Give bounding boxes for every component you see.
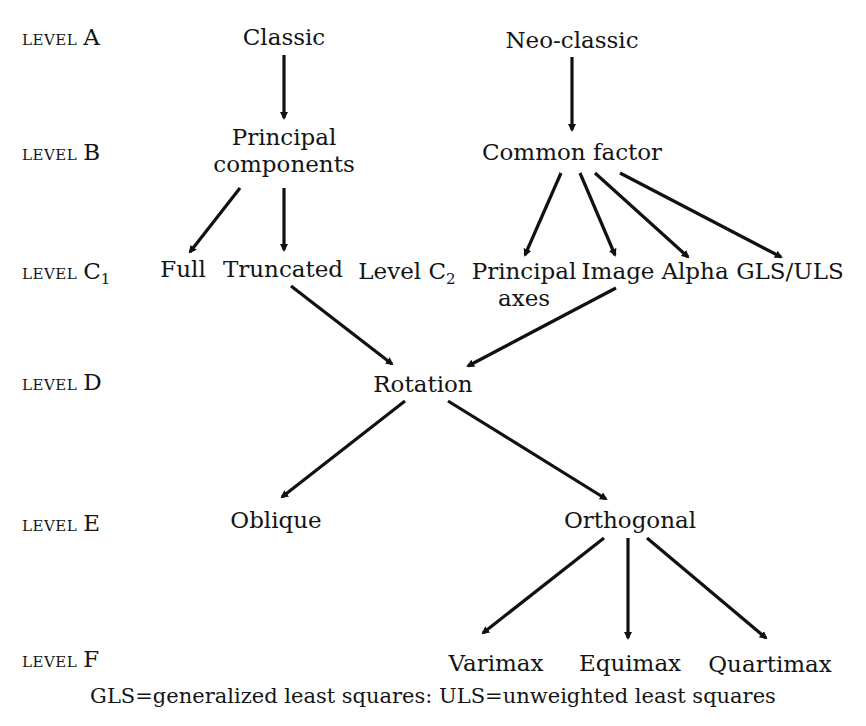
level-prefix: LEVEL xyxy=(22,517,77,535)
node-full: Full xyxy=(160,256,205,283)
node-alpha: Alpha xyxy=(661,258,728,285)
level-prefix: LEVEL xyxy=(22,146,77,164)
level-prefix: LEVEL xyxy=(22,31,77,49)
factor-analysis-diagram: LEVELA LEVELB LEVELC1 LEVELD LEVELE LEVE… xyxy=(0,0,866,726)
node-line: Principal xyxy=(472,258,577,285)
footnote: GLS=generalized least squares: ULS=unwei… xyxy=(90,684,776,708)
level-prefix: LEVEL xyxy=(22,265,77,283)
node-principal-components: Principal components xyxy=(213,124,354,178)
node-level-c2-label: Level C2 xyxy=(358,258,455,293)
node-varimax: Varimax xyxy=(448,650,543,677)
node-gls-uls: GLS/ULS xyxy=(736,258,844,285)
level-f-label: LEVELF xyxy=(22,646,99,676)
level-letter: B xyxy=(83,139,100,165)
level-letter: E xyxy=(83,510,100,536)
arrow-orthogonal-to-quartimax xyxy=(647,538,766,638)
level-c2-text: Level C xyxy=(358,258,446,284)
level-e-label: LEVELE xyxy=(22,510,100,540)
level-letter: C xyxy=(83,258,101,284)
node-quartimax: Quartimax xyxy=(708,651,831,678)
node-image: Image xyxy=(582,258,655,285)
arrow-cf-to-gls-uls xyxy=(620,173,781,257)
level-letter: F xyxy=(83,646,99,672)
arrow-cf-to-principal-axes xyxy=(525,173,561,255)
node-line: Principal xyxy=(213,124,354,151)
node-oblique: Oblique xyxy=(230,507,321,534)
level-prefix: LEVEL xyxy=(22,376,77,394)
node-principal-axes: Principal axes xyxy=(472,258,577,312)
node-common-factor: Common factor xyxy=(482,139,662,166)
level-letter: A xyxy=(83,24,100,50)
node-line: axes xyxy=(472,285,577,312)
node-rotation: Rotation xyxy=(373,371,472,398)
level-letter: D xyxy=(83,369,101,395)
arrow-layer xyxy=(0,0,866,726)
level-d-label: LEVELD xyxy=(22,369,102,399)
node-truncated: Truncated xyxy=(223,256,343,283)
node-neo-classic: Neo-classic xyxy=(505,27,638,54)
level-c2-subscript: 2 xyxy=(446,270,456,288)
node-line: components xyxy=(213,151,354,178)
arrow-pc-to-full xyxy=(190,188,240,252)
arrow-rotation-to-oblique xyxy=(282,401,405,497)
level-prefix: LEVEL xyxy=(22,653,77,671)
node-classic: Classic xyxy=(243,24,326,51)
level-subscript: 1 xyxy=(101,270,111,288)
arrow-truncated-to-rotation xyxy=(291,286,392,364)
node-equimax: Equimax xyxy=(579,650,681,677)
level-a-label: LEVELA xyxy=(22,24,100,54)
level-c1-label: LEVELC1 xyxy=(22,258,110,293)
arrow-rotation-to-orthogonal xyxy=(448,401,606,499)
node-orthogonal: Orthogonal xyxy=(564,507,696,534)
level-b-label: LEVELB xyxy=(22,139,100,169)
arrow-orthogonal-to-varimax xyxy=(483,538,604,633)
